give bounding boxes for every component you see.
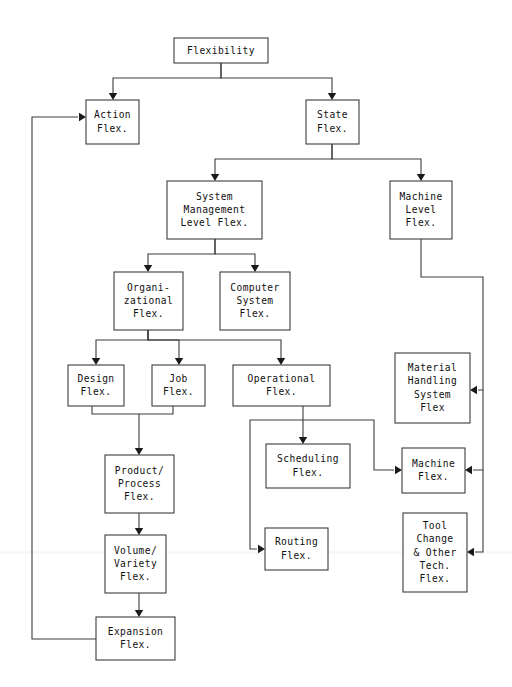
node-label-line: Volume/ xyxy=(114,545,157,556)
node-label-line: Design xyxy=(77,373,114,384)
node-label-line: Action xyxy=(94,109,131,120)
diagram-page: FlexibilityActionFlex.StateFlex.SystemMa… xyxy=(0,0,512,687)
node-label-line: Machine xyxy=(412,458,455,469)
node-label-line: Flex. xyxy=(281,550,312,561)
node-label-line: Change xyxy=(416,533,453,544)
node-label-line: Process xyxy=(118,478,161,489)
node-label-line: System xyxy=(196,191,233,202)
node-label-line: Level Flex. xyxy=(181,217,249,228)
node-label-line: zational xyxy=(124,295,173,306)
node-operational-flex[interactable]: OperationalFlex. xyxy=(233,365,330,406)
node-label-line: Flex. xyxy=(293,467,324,478)
node-label-line: Variety xyxy=(114,558,157,569)
node-label-line: Flex. xyxy=(81,386,112,397)
node-label-line: Machine xyxy=(399,191,442,202)
node-label-line: Flex. xyxy=(163,386,194,397)
node-action-flex[interactable]: ActionFlex. xyxy=(86,100,139,144)
node-label-line: System xyxy=(236,295,273,306)
node-routing-flex[interactable]: RoutingFlex. xyxy=(265,528,328,570)
node-label-line: System xyxy=(414,389,451,400)
node-label-line: Flex. xyxy=(120,639,151,650)
node-volume-variety[interactable]: Volume/VarietyFlex. xyxy=(105,535,166,593)
node-scheduling-flex[interactable]: SchedulingFlex. xyxy=(266,444,350,488)
node-label-line: Job xyxy=(169,373,188,384)
node-label-line: Product/ xyxy=(115,465,164,476)
node-label-line: Flexibility xyxy=(187,45,255,56)
node-machine-level-flex[interactable]: MachineLevelFlex. xyxy=(390,181,452,239)
node-label-line: Flex. xyxy=(317,123,348,134)
node-label-line: Flex. xyxy=(97,123,128,134)
node-label-line: Flex. xyxy=(240,308,271,319)
node-job-flex[interactable]: JobFlex. xyxy=(152,365,205,406)
node-machine-flex[interactable]: MachineFlex. xyxy=(402,448,465,493)
node-label-line: Tool xyxy=(423,520,448,531)
node-label-line: Operational xyxy=(248,373,316,384)
node-label-line: & Other xyxy=(413,547,456,558)
node-label-line: Flex. xyxy=(406,217,437,228)
node-product-process[interactable]: Product/ProcessFlex. xyxy=(105,455,174,513)
node-system-mgmt-flex[interactable]: SystemManagementLevel Flex. xyxy=(167,181,262,239)
node-label-line: Management xyxy=(184,204,246,215)
node-label-line: Computer xyxy=(230,282,279,293)
node-label-line: Expansion xyxy=(108,626,164,637)
node-label-line: Scheduling xyxy=(277,453,339,464)
node-design-flex[interactable]: DesignFlex. xyxy=(68,365,124,406)
node-flexibility[interactable]: Flexibility xyxy=(174,38,268,63)
node-label-line: Flex. xyxy=(133,308,164,319)
node-label-line: State xyxy=(317,109,348,120)
node-expansion-flex[interactable]: ExpansionFlex. xyxy=(96,617,175,660)
node-computer-sys-flex[interactable]: ComputerSystemFlex. xyxy=(220,272,290,330)
node-label-line: Tech. xyxy=(420,560,451,571)
node-label-line: Flex xyxy=(420,402,445,413)
node-label-line: Flex. xyxy=(120,571,151,582)
node-organizational-flex[interactable]: Organi-zationalFlex. xyxy=(114,272,183,330)
node-label-line: Flex. xyxy=(266,386,297,397)
flowchart-canvas: FlexibilityActionFlex.StateFlex.SystemMa… xyxy=(0,0,512,687)
node-label-line: Handling xyxy=(408,375,457,386)
node-tool-change-flex[interactable]: ToolChange& OtherTech.Flex. xyxy=(403,513,467,592)
node-label-line: Flex. xyxy=(420,573,451,584)
node-material-handling[interactable]: MaterialHandlingSystemFlex xyxy=(395,353,470,423)
node-label-line: Material xyxy=(408,362,457,373)
node-label-line: Routing xyxy=(275,536,318,547)
node-label-line: Level xyxy=(406,204,437,215)
node-label-line: Organi- xyxy=(127,282,170,293)
node-label-line: Flex. xyxy=(418,471,449,482)
node-state-flex[interactable]: StateFlex. xyxy=(306,100,359,144)
node-label-line: Flex. xyxy=(124,491,155,502)
